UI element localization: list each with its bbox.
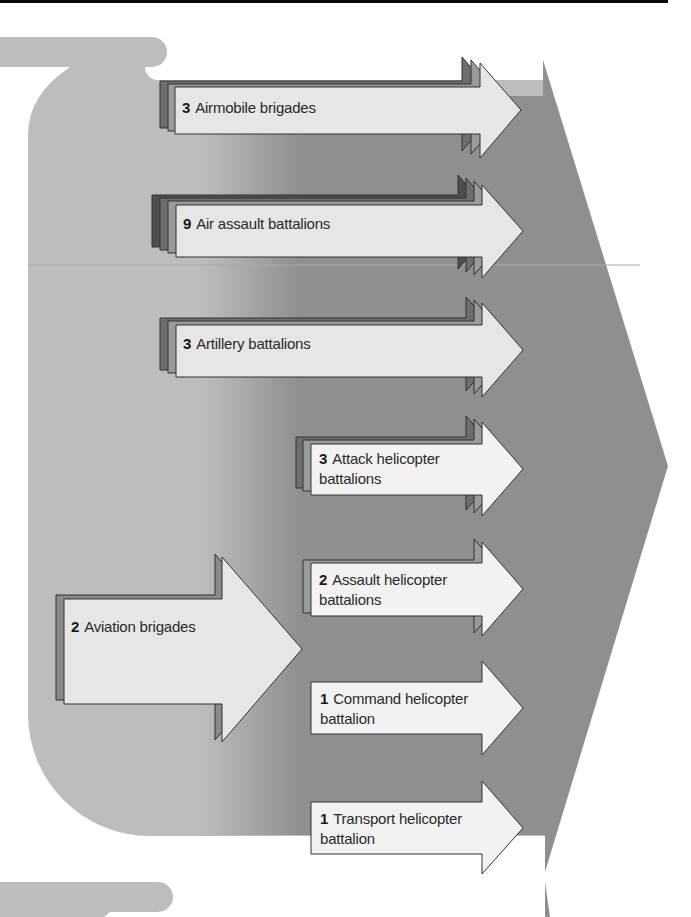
unit-count: 2: [319, 571, 327, 588]
unit-name: Air assault battalions: [196, 215, 330, 232]
unit-name: Assault helicopter: [332, 571, 447, 588]
unit-label-transport-helicopter-battalion: 1Transport helicopter battalion: [320, 809, 462, 849]
unit-name: Attack helicopter: [332, 450, 440, 467]
unit-name: Transport helicopter: [333, 810, 462, 827]
unit-count: 3: [182, 99, 190, 116]
unit-label-assault-helicopter-battalions: 2Assault helicopter battalions: [319, 570, 447, 610]
unit-name-line2: battalion: [320, 829, 462, 849]
unit-count: 1: [320, 690, 328, 707]
unit-label-artillery-battalions: 3Artillery battalions: [183, 334, 311, 354]
unit-name-line2: battalions: [319, 469, 440, 489]
unit-count: 9: [183, 215, 191, 232]
unit-name: Artillery battalions: [196, 335, 310, 352]
unit-count: 3: [319, 450, 327, 467]
unit-name: Command helicopter: [333, 690, 468, 707]
big-arrow-tail: [545, 882, 550, 917]
unit-name-line2: battalions: [319, 590, 447, 610]
unit-name-line2: battalion: [320, 709, 468, 729]
unit-count: 1: [320, 810, 328, 827]
unit-name: Airmobile brigades: [195, 99, 316, 116]
unit-label-command-helicopter-battalion: 1Command helicopter battalion: [320, 689, 468, 729]
background-bar-bottom: [0, 882, 173, 917]
unit-label-airmobile-brigades: 3Airmobile brigades: [182, 98, 316, 118]
feed-count: 2: [71, 618, 79, 635]
feed-name: Aviation brigades: [84, 618, 195, 635]
unit-count: 3: [183, 335, 191, 352]
unit-label-air-assault-battalions: 9Air assault battalions: [183, 214, 330, 234]
unit-label-attack-helicopter-battalions: 3Attack helicopter battalions: [319, 449, 440, 489]
feed-label-aviation-brigades: 2Aviation brigades: [71, 617, 196, 637]
header-bar: [0, 0, 668, 3]
